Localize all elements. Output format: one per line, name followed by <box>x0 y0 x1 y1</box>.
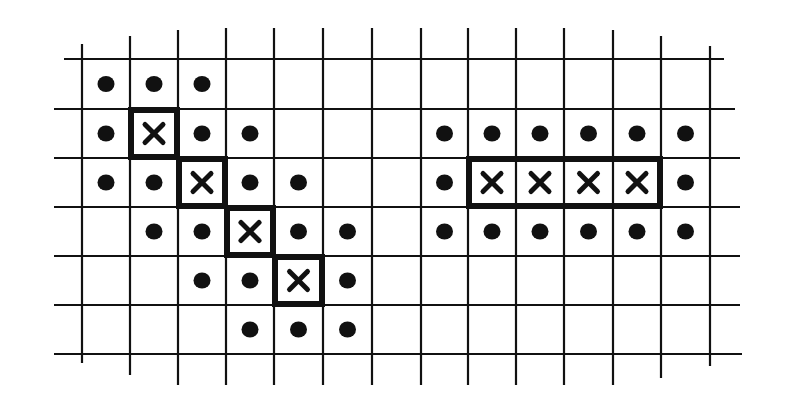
dot-mark <box>436 126 453 142</box>
dot-mark <box>242 322 259 338</box>
dot-mark <box>436 175 453 191</box>
dot-mark <box>629 126 646 142</box>
cross-mark <box>483 174 501 192</box>
dot-mark <box>242 175 259 191</box>
cross-mark <box>580 174 598 192</box>
dot-mark <box>194 224 211 240</box>
dot-mark <box>436 224 453 240</box>
dot-mark <box>194 126 211 142</box>
cross-mark <box>531 174 549 192</box>
dot-mark <box>146 224 163 240</box>
dot-mark <box>290 175 307 191</box>
dot-mark <box>242 126 259 142</box>
dot-mark <box>194 76 211 92</box>
dot-mark <box>532 126 549 142</box>
dot-mark <box>339 224 356 240</box>
dot-mark <box>677 224 694 240</box>
cross-mark <box>290 272 308 290</box>
cross-mark <box>193 174 211 192</box>
dot-mark <box>242 273 259 289</box>
dot-mark <box>339 322 356 338</box>
dot-mark <box>146 175 163 191</box>
dot-mark <box>290 224 307 240</box>
dot-mark <box>290 322 307 338</box>
cross-mark <box>628 174 646 192</box>
dot-mark <box>98 175 115 191</box>
dot-mark <box>98 126 115 142</box>
dot-mark <box>194 273 211 289</box>
cross-mark <box>241 223 259 241</box>
dot-mark <box>484 126 501 142</box>
dot-mark <box>484 224 501 240</box>
grid-diagram <box>0 0 785 407</box>
dot-mark <box>580 224 597 240</box>
dot-mark <box>532 224 549 240</box>
dot-mark <box>677 126 694 142</box>
dot-mark <box>146 76 163 92</box>
cross-mark <box>145 125 163 143</box>
dot-mark <box>629 224 646 240</box>
dot-mark <box>98 76 115 92</box>
dot-mark <box>339 273 356 289</box>
dot-mark <box>677 175 694 191</box>
dot-mark <box>580 126 597 142</box>
